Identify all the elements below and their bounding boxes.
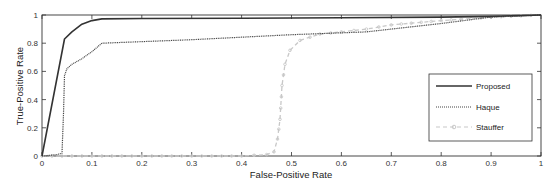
stauffer-marker — [353, 29, 356, 32]
stauffer-marker — [279, 118, 282, 121]
legend-label-proposed: Proposed — [476, 82, 510, 91]
x-tick-label: 0.1 — [86, 159, 98, 168]
stauffer-marker — [281, 84, 284, 87]
stauffer-marker — [450, 19, 453, 22]
stauffer-marker — [430, 20, 433, 23]
y-tick-label: 0.2 — [27, 124, 39, 133]
stauffer-marker — [299, 39, 302, 42]
stauffer-marker — [289, 49, 292, 52]
stauffer-marker — [400, 23, 403, 26]
x-tick-label: 0.4 — [236, 159, 248, 168]
x-tick-label: 0.6 — [336, 159, 348, 168]
x-tick-label: 0.8 — [436, 159, 448, 168]
x-axis-label: False-Positive Rate — [250, 169, 332, 180]
stauffer-marker — [365, 28, 368, 31]
legend-label-haque: Haque — [476, 103, 500, 112]
x-tick-label: 0.3 — [186, 159, 198, 168]
x-tick-label: 1 — [539, 159, 544, 168]
x-tick-label: 0.7 — [386, 159, 398, 168]
y-tick-label: 0 — [34, 152, 39, 161]
y-tick-label: 1 — [34, 11, 39, 20]
legend: Proposed Haque Stauffer — [429, 74, 532, 141]
x-tick-label: 0.9 — [486, 159, 498, 168]
legend-label-stauffer: Stauffer — [476, 123, 504, 132]
x-tick-label: 0.2 — [136, 159, 148, 168]
x-tick-label: 0.5 — [286, 159, 298, 168]
stauffer-marker — [284, 63, 287, 66]
y-tick-label: 0.8 — [27, 39, 39, 48]
y-tick-label: 0.6 — [27, 67, 39, 76]
y-tick-label: 0.4 — [27, 96, 39, 105]
roc-chart: 00.10.20.30.40.50.60.70.80.9100.20.40.60… — [0, 0, 559, 186]
x-tick-label: 0 — [40, 159, 45, 168]
y-axis-label: True-Positive Rate — [14, 47, 25, 125]
